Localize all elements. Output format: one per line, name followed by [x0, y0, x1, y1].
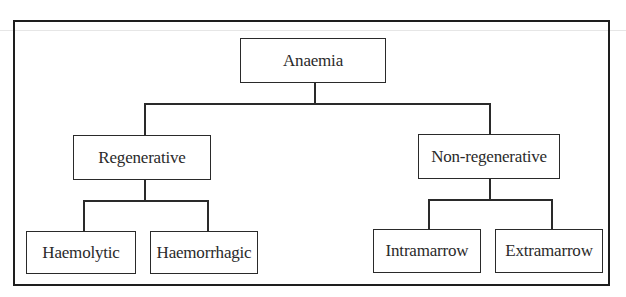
connector-to-extramarrow — [551, 199, 553, 229]
connector-regenerative-down — [144, 180, 146, 200]
connector-non-regenerative-bar — [428, 199, 552, 201]
node-extramarrow: Extramarrow — [495, 229, 603, 273]
connector-to-haemolytic — [83, 200, 85, 231]
connector-to-non-regenerative — [489, 103, 491, 134]
connector-to-intramarrow — [428, 199, 430, 229]
connector-non-regenerative-down — [489, 179, 491, 199]
node-regenerative: Regenerative — [73, 135, 211, 180]
connector-root-down — [314, 83, 316, 104]
node-anaemia: Anaemia — [240, 38, 386, 83]
node-haemorrhagic: Haemorrhagic — [150, 231, 258, 274]
node-intramarrow: Intramarrow — [373, 229, 481, 273]
connector-regenerative-bar — [83, 200, 208, 202]
connector-to-regenerative — [144, 103, 146, 135]
connector-to-haemorrhagic — [207, 200, 209, 231]
node-non-regenerative: Non-regenerative — [418, 134, 560, 179]
node-haemolytic: Haemolytic — [26, 231, 136, 274]
connector-level1-bar — [144, 103, 490, 105]
